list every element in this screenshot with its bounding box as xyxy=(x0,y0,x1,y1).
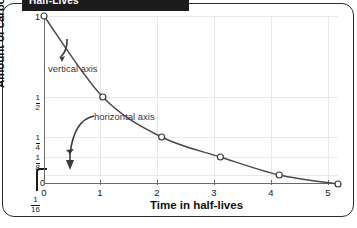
fraction-numerator: 1 xyxy=(36,94,40,102)
figure-container: Half-Lives Amount of carbon 14 remaining… xyxy=(0,0,357,228)
fraction-one-half: 1 2 xyxy=(36,94,40,113)
fraction-numerator: 1 xyxy=(36,154,40,162)
y-tick-label-one-half: 1 2 xyxy=(0,94,40,113)
x-tick-label-1: 1 xyxy=(90,187,110,198)
data-point-1 xyxy=(100,94,106,100)
x-tick-label-4: 4 xyxy=(261,187,281,198)
data-point-3 xyxy=(217,154,223,160)
fraction-denominator: 4 xyxy=(36,144,40,152)
x-axis-title: Time in half-lives xyxy=(18,199,357,211)
horizontal-axis-arrow-icon xyxy=(62,114,96,174)
data-point-4 xyxy=(276,172,282,178)
y-tick-label-1: 1 xyxy=(0,13,40,22)
x-tick-label-5: 5 xyxy=(318,187,338,198)
header-bar-label: Half-Lives xyxy=(29,0,79,6)
y-tick-label-one-quarter: 1 4 xyxy=(0,134,40,153)
vertical-axis-arrow-icon xyxy=(46,38,72,64)
annotation-horizontal-axis: horizontal axis xyxy=(94,111,155,122)
data-point-0 xyxy=(41,13,47,19)
x-tick-label-2: 2 xyxy=(147,187,167,198)
x-tick-label-3: 3 xyxy=(204,187,224,198)
plot-area: vertical axis horizontal axis xyxy=(44,16,338,184)
x-tick-label-0: 0 xyxy=(34,187,54,198)
fraction-denominator: 2 xyxy=(36,104,40,112)
fraction-one-quarter: 1 4 xyxy=(36,134,40,153)
data-point-2 xyxy=(159,134,165,140)
header-bar: Half-Lives xyxy=(22,0,189,11)
fraction-numerator: 1 xyxy=(36,134,40,142)
annotation-vertical-axis: vertical axis xyxy=(48,63,98,74)
